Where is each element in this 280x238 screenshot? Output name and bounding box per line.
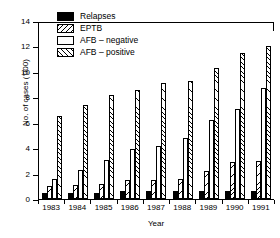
x-tick-0 <box>38 200 39 204</box>
x-tick-label-1985: 1985 <box>90 203 116 212</box>
bar-1989-afb-positive <box>214 68 219 199</box>
legend-label: AFB – positive <box>80 47 135 57</box>
y-tick-label-8: 8 <box>0 93 30 102</box>
legend-item-afb-positive: AFB – positive <box>57 47 138 57</box>
bar-1987-afb-positive <box>161 83 166 199</box>
bar-1986-afb-positive <box>135 90 140 199</box>
legend-label: AFB – negative <box>80 35 138 45</box>
y-tick-4 <box>33 149 38 150</box>
legend-label: Relapses <box>80 11 115 21</box>
x-axis-title: Year <box>38 219 274 228</box>
x-tick-2 <box>90 200 91 204</box>
bar-1983-afb-positive <box>57 116 62 199</box>
x-tick-1 <box>64 200 65 204</box>
legend-swatch-icon <box>57 12 74 21</box>
legend-item-afb-negative: AFB – negative <box>57 35 138 45</box>
x-axis-labels: 198319841985198619871988198919901991 <box>38 203 274 212</box>
legend-label: EPTB <box>80 23 102 33</box>
x-tick-label-1991: 1991 <box>248 203 274 212</box>
bar-1984-afb-positive <box>83 105 88 199</box>
bar-1990-afb-positive <box>240 53 245 199</box>
y-tick-label-6: 6 <box>0 119 30 128</box>
frame-right-stub <box>273 22 274 31</box>
x-tick-label-1989: 1989 <box>195 203 221 212</box>
x-tick-label-1987: 1987 <box>143 203 169 212</box>
legend-swatch-icon <box>57 36 74 45</box>
x-tick-label-1988: 1988 <box>169 203 195 212</box>
y-tick-2 <box>33 175 38 176</box>
x-tick-9 <box>274 200 275 204</box>
x-tick-7 <box>222 200 223 204</box>
x-tick-label-1986: 1986 <box>117 203 143 212</box>
y-tick-6 <box>33 124 38 125</box>
x-tick-6 <box>195 200 196 204</box>
legend-item-relapses: Relapses <box>57 11 138 21</box>
y-tick-label-10: 10 <box>0 68 30 77</box>
y-tick-label-4: 4 <box>0 144 30 153</box>
y-tick-label-14: 14 <box>0 17 30 26</box>
y-tick-label-0: 0 <box>0 195 30 204</box>
bar-group-1991 <box>248 23 274 199</box>
x-tick-label-1990: 1990 <box>222 203 248 212</box>
bar-group-1990 <box>222 23 248 199</box>
bar-group-1989 <box>196 23 222 199</box>
bar-group-1987 <box>143 23 169 199</box>
y-tick-label-2: 2 <box>0 170 30 179</box>
x-tick-label-1984: 1984 <box>64 203 90 212</box>
y-tick-10 <box>33 73 38 74</box>
y-tick-14 <box>33 22 38 23</box>
legend-swatch-icon <box>57 24 74 33</box>
x-tick-5 <box>169 200 170 204</box>
y-tick-8 <box>33 98 38 99</box>
legend: RelapsesEPTBAFB – negativeAFB – positive <box>57 11 138 57</box>
legend-swatch-icon <box>57 48 74 57</box>
y-tick-12 <box>33 47 38 48</box>
x-tick-3 <box>117 200 118 204</box>
y-tick-label-12: 12 <box>0 42 30 51</box>
figure: No. of cases ('000) 02468101214 19831984… <box>0 0 280 238</box>
legend-item-eptb: EPTB <box>57 23 138 33</box>
bar-1988-afb-positive <box>188 81 193 199</box>
bar-1991-afb-positive <box>266 46 271 199</box>
x-tick-4 <box>143 200 144 204</box>
x-tick-label-1983: 1983 <box>38 203 64 212</box>
x-tick-8 <box>248 200 249 204</box>
bar-group-1988 <box>170 23 196 199</box>
bar-1985-afb-positive <box>109 95 114 199</box>
